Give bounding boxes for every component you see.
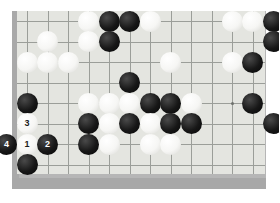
stone-white[interactable] <box>140 113 161 134</box>
stone-white[interactable] <box>160 134 181 155</box>
stone-white[interactable] <box>78 31 99 52</box>
stone-black-move-2[interactable]: 2 <box>37 134 58 155</box>
stone-white-move-3[interactable]: 3 <box>17 113 38 134</box>
stone-black[interactable] <box>119 11 140 32</box>
stone-black[interactable] <box>160 93 181 114</box>
stone-black[interactable] <box>263 11 280 32</box>
stone-black[interactable] <box>160 113 181 134</box>
stone-black[interactable] <box>119 72 140 93</box>
stone-black[interactable] <box>263 113 280 134</box>
stone-black[interactable] <box>140 93 161 114</box>
stone-white[interactable] <box>181 93 202 114</box>
stone-black[interactable] <box>17 154 38 175</box>
stone-black[interactable] <box>99 31 120 52</box>
stone-white[interactable] <box>78 93 99 114</box>
move-number-label: 1 <box>24 140 29 149</box>
stone-black[interactable] <box>119 113 140 134</box>
stone-layer: 3412 <box>0 0 279 203</box>
move-number-label: 3 <box>24 119 29 128</box>
stone-black[interactable] <box>78 134 99 155</box>
stone-black[interactable] <box>242 52 263 73</box>
stone-black-move-4[interactable]: 4 <box>0 134 17 155</box>
stone-white[interactable] <box>222 11 243 32</box>
stone-white[interactable] <box>119 93 140 114</box>
stone-white[interactable] <box>37 31 58 52</box>
move-number-label: 4 <box>4 140 9 149</box>
stone-white[interactable] <box>99 134 120 155</box>
stone-black[interactable] <box>17 93 38 114</box>
stone-white[interactable] <box>160 52 181 73</box>
stone-black[interactable] <box>242 93 263 114</box>
move-number-label: 2 <box>45 140 50 149</box>
stone-white[interactable] <box>58 52 79 73</box>
stone-white[interactable] <box>140 11 161 32</box>
stone-black[interactable] <box>99 11 120 32</box>
stone-white-move-1[interactable]: 1 <box>17 134 38 155</box>
stone-black[interactable] <box>263 31 280 52</box>
stone-white[interactable] <box>17 52 38 73</box>
stone-white[interactable] <box>222 52 243 73</box>
stone-black[interactable] <box>78 113 99 134</box>
stone-white[interactable] <box>78 11 99 32</box>
stone-white[interactable] <box>140 134 161 155</box>
stone-white[interactable] <box>242 11 263 32</box>
stone-black[interactable] <box>181 113 202 134</box>
stone-white[interactable] <box>99 113 120 134</box>
go-board-screenshot: 3412 <box>0 0 279 203</box>
stone-white[interactable] <box>99 93 120 114</box>
stone-white[interactable] <box>37 52 58 73</box>
